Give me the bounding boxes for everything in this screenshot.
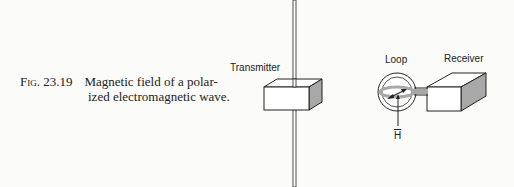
loop-label: Loop (385, 54, 407, 65)
transmitter-box (264, 79, 322, 110)
h-field-label: H (394, 130, 401, 141)
transmitter-label: Transmitter (230, 62, 280, 73)
receiver-box (427, 73, 486, 111)
receiver-label: Receiver (444, 53, 483, 64)
polarized-wave-diagram (0, 0, 514, 187)
